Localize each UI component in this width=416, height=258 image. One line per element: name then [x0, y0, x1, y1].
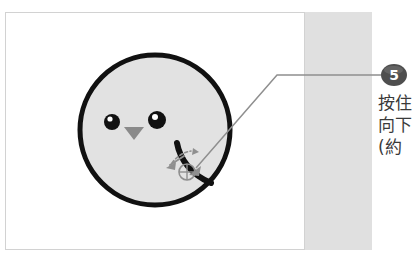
right-gray-band	[305, 12, 372, 250]
callout-number-label: 5	[381, 64, 407, 86]
caption-line-3: (約	[378, 136, 416, 158]
callout-number-badge: 5	[381, 64, 407, 86]
caption-line-1: 按住	[378, 92, 416, 114]
callout-caption: 按住 向下 (約	[378, 92, 416, 158]
caption-line-2: 向下	[378, 114, 416, 136]
illustration-frame	[5, 12, 305, 250]
